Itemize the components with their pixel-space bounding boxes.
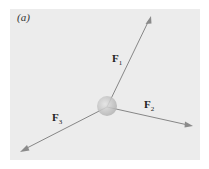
force-label-f2: F2 xyxy=(144,98,154,113)
force-subscript: 1 xyxy=(119,59,123,67)
force-label-f3: F3 xyxy=(52,111,62,126)
force-label-f1: F1 xyxy=(112,52,122,67)
force-symbol: F xyxy=(144,98,151,110)
force-subscript: 2 xyxy=(151,105,155,113)
panel-label: (a) xyxy=(17,11,30,23)
body-sphere xyxy=(97,96,117,116)
force-symbol: F xyxy=(52,111,59,123)
force-symbol: F xyxy=(112,52,119,64)
force-subscript: 3 xyxy=(59,118,63,126)
force-arrow-f3 xyxy=(20,107,107,152)
force-diagram xyxy=(0,0,209,169)
